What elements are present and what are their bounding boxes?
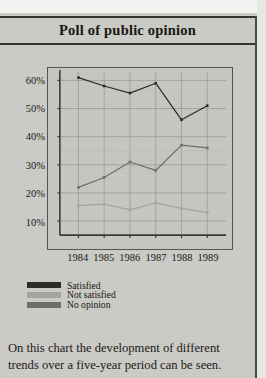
data-point	[154, 82, 157, 85]
data-point	[206, 147, 209, 150]
data-point	[77, 186, 80, 189]
data-point	[103, 203, 106, 206]
page-title: Poll of public opinion	[59, 22, 196, 39]
data-point	[180, 119, 183, 122]
data-point	[206, 104, 209, 107]
caption-line: On this chart the development of differe…	[8, 340, 252, 357]
x-axis-tick-label: 1989	[197, 252, 218, 263]
y-axis-tick-label: 50%	[26, 102, 45, 113]
x-axis-tick-label: 1985	[93, 252, 114, 263]
legend-item: No opinion	[27, 301, 116, 310]
series-line-satisfied	[78, 78, 207, 120]
x-axis-tick-label: 1984	[67, 252, 88, 263]
legend-item: Satisfied	[27, 281, 116, 290]
data-point	[206, 211, 209, 214]
data-point	[77, 204, 80, 207]
y-axis-labels: 10%20%30%40%50%60%	[0, 67, 45, 250]
data-point	[129, 209, 132, 212]
legend-item: Not satisfied	[27, 291, 116, 300]
y-axis-tick-label: 40%	[26, 131, 45, 142]
chart-panel	[47, 67, 233, 250]
data-point	[154, 202, 157, 205]
y-axis-tick-label: 30%	[26, 159, 45, 170]
legend-label: No opinion	[67, 300, 110, 310]
document-page: Poll of public opinion 10%20%30%40%50%60…	[0, 0, 266, 378]
data-point	[103, 176, 106, 179]
chart-legend: SatisfiedNot satisfiedNo opinion	[27, 281, 116, 311]
x-axis-tick-label: 1987	[145, 252, 166, 263]
chart-title-band: Poll of public opinion	[0, 18, 255, 43]
legend-swatch	[27, 282, 61, 288]
data-point	[129, 161, 132, 164]
data-point	[77, 76, 80, 79]
title-rule-bottom	[0, 43, 256, 45]
y-axis-tick-label: 10%	[26, 216, 45, 227]
series-line-no-opinion	[78, 145, 207, 187]
x-axis-tick-label: 1988	[171, 252, 192, 263]
x-axis-tick-label: 1986	[119, 252, 140, 263]
series-line-not-satisfied	[78, 203, 207, 213]
x-axis-labels: 198419851986198719881989	[47, 252, 233, 268]
data-point	[129, 92, 132, 95]
page-right-margin	[257, 0, 266, 378]
data-point	[180, 144, 183, 147]
legend-swatch	[27, 302, 61, 308]
legend-swatch	[27, 292, 61, 298]
figure-caption: On this chart the development of differe…	[8, 340, 252, 374]
line-chart-plot	[48, 68, 232, 249]
data-point	[180, 207, 183, 210]
data-point	[103, 85, 106, 88]
y-axis-tick-label: 60%	[26, 74, 45, 85]
caption-line: trends over a five-year period can be se…	[8, 357, 252, 374]
data-point	[154, 169, 157, 172]
page-top-margin	[0, 0, 266, 13]
y-axis-tick-label: 20%	[26, 188, 45, 199]
